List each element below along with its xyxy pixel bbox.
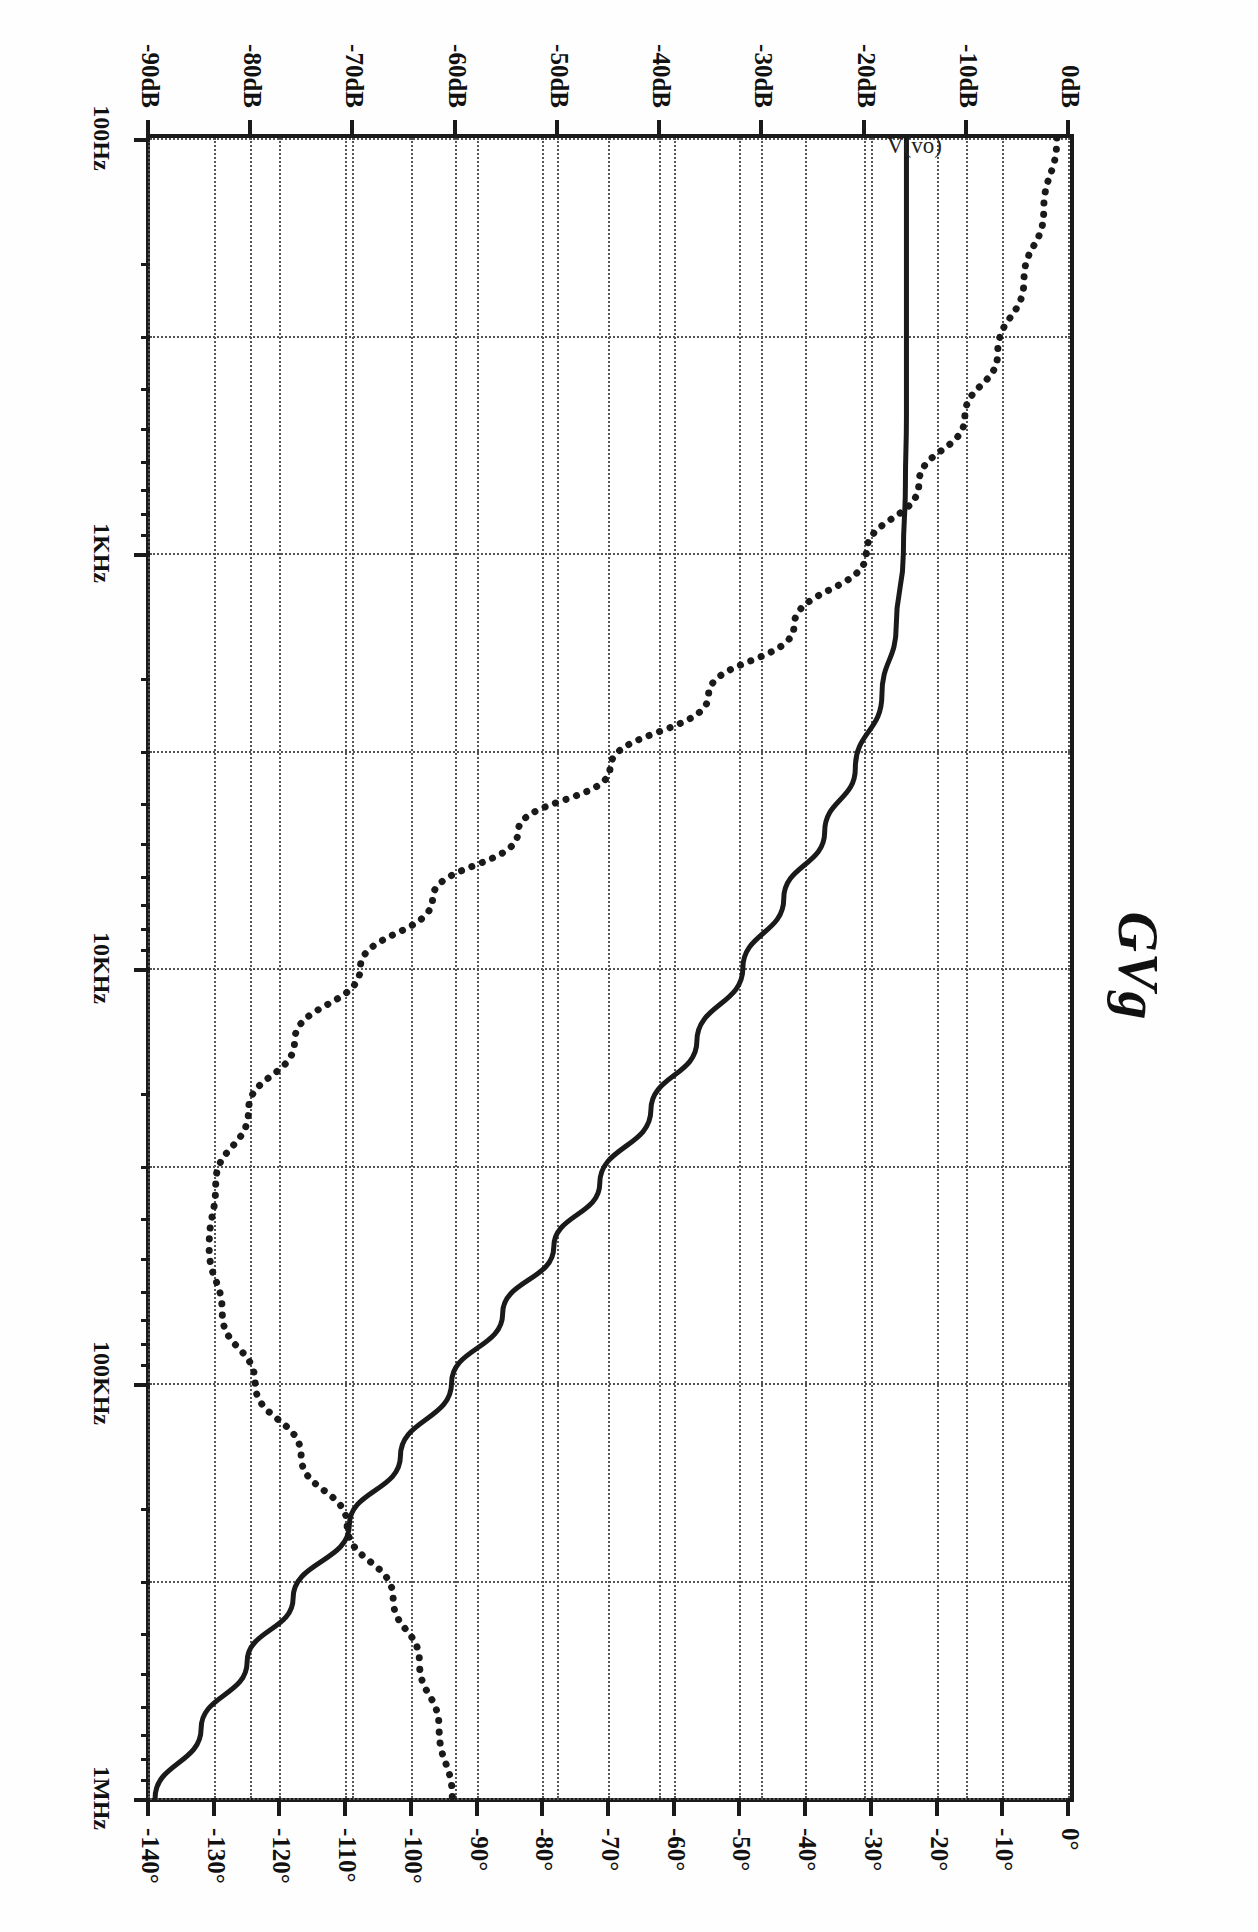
phase-tick: [409, 1798, 413, 1816]
frequency-tick-minor: [141, 803, 150, 806]
phase-tick-label: -90°: [465, 1828, 493, 1871]
series-magnitude: [155, 138, 906, 1798]
magnitude-tick: [1066, 120, 1070, 138]
frequency-tick-label: 100Hz: [88, 105, 115, 170]
magnitude-tick: [759, 120, 763, 138]
frequency-tick-minor: [141, 534, 150, 537]
phase-tick-label: -130°: [202, 1828, 230, 1884]
magnitude-tick-label: -50dB: [545, 44, 573, 108]
frequency-tick-minor: [141, 263, 150, 266]
frequency-tick-major: [134, 1383, 150, 1387]
magnitude-tick-label: -30dB: [749, 44, 777, 108]
phase-tick-label: -110°: [333, 1828, 361, 1882]
phase-tick: [1066, 1798, 1070, 1816]
magnitude-tick-label: -60dB: [443, 44, 471, 108]
phase-tick: [212, 1798, 216, 1816]
frequency-tick-minor: [141, 1633, 150, 1636]
frequency-tick-minor: [141, 1258, 150, 1261]
frequency-tick-minor: [141, 678, 150, 681]
phase-tick-label: -20°: [925, 1828, 953, 1871]
frequency-tick-major: [134, 138, 150, 142]
frequency-tick-minor: [141, 1343, 150, 1346]
frequency-tick-minor: [141, 1364, 150, 1367]
frequency-tick-minor: [141, 1291, 150, 1294]
frequency-tick-minor: [141, 428, 150, 431]
frequency-tick-minor: [141, 876, 150, 879]
frequency-tick-major: [134, 553, 150, 557]
frequency-tick-minor: [141, 928, 150, 931]
phase-tick-label: 0°: [1056, 1828, 1084, 1851]
frequency-tick-major: [134, 968, 150, 972]
phase-tick-label: -60°: [662, 1828, 690, 1871]
magnitude-tick: [453, 120, 457, 138]
gridline-vertical: [150, 1798, 1070, 1800]
frequency-tick-minor: [141, 1779, 150, 1782]
frequency-tick-minor: [141, 904, 150, 907]
frequency-tick-label: 1KHz: [88, 523, 115, 583]
page-title: GVg: [1106, 912, 1170, 1021]
frequency-tick-minor: [141, 1166, 150, 1169]
frequency-tick-minor: [141, 388, 150, 391]
frequency-tick-label: 1MHz: [88, 1766, 115, 1830]
frequency-tick-minor: [141, 1734, 150, 1737]
magnitude-tick-label: -90dB: [136, 44, 164, 108]
plot-area: 100Hz1KHz10KHz100KHz1MHz 0dB-10dB-20dB-3…: [146, 134, 1074, 1802]
phase-tick-label: -80°: [530, 1828, 558, 1871]
frequency-tick-label: 10KHz: [88, 932, 115, 1004]
phase-tick: [803, 1798, 807, 1816]
frequency-tick-minor: [141, 1758, 150, 1761]
frequency-tick-minor: [141, 513, 150, 516]
frequency-tick-minor: [141, 1581, 150, 1584]
phase-tick: [146, 1798, 150, 1816]
magnitude-tick-label: -70dB: [340, 44, 368, 108]
frequency-tick-minor: [141, 1673, 150, 1676]
phase-tick: [672, 1798, 676, 1816]
magnitude-tick: [555, 120, 559, 138]
magnitude-tick: [657, 120, 661, 138]
phase-tick: [869, 1798, 873, 1816]
phase-tick-label: -100°: [399, 1828, 427, 1884]
phase-tick: [935, 1798, 939, 1816]
phase-tick-label: -40°: [793, 1828, 821, 1871]
phase-tick: [343, 1798, 347, 1816]
phase-tick-label: -30°: [859, 1828, 887, 1871]
magnitude-tick: [146, 120, 150, 138]
phase-tick-label: -120°: [267, 1828, 295, 1884]
frequency-tick-minor: [141, 1218, 150, 1221]
phase-tick: [475, 1798, 479, 1816]
frequency-tick-minor: [141, 1319, 150, 1322]
magnitude-tick: [248, 120, 252, 138]
frequency-tick-minor: [141, 843, 150, 846]
magnitude-tick-label: -40dB: [647, 44, 675, 108]
magnitude-tick-label: 0dB: [1056, 65, 1084, 108]
bode-plot-figure: GVg 100Hz1KHz10KHz100KHz1MHz 0dB-10dB-20…: [64, 56, 1194, 1876]
frequency-tick-minor: [141, 1093, 150, 1096]
frequency-tick-minor: [141, 1508, 150, 1511]
frequency-tick-label: 100KHz: [88, 1341, 115, 1425]
magnitude-tick-label: -20dB: [852, 44, 880, 108]
magnitude-tick: [862, 120, 866, 138]
phase-tick-label: -140°: [136, 1828, 164, 1884]
frequency-tick-minor: [141, 949, 150, 952]
frequency-tick-minor: [141, 1706, 150, 1709]
magnitude-tick: [964, 120, 968, 138]
phase-tick: [606, 1798, 610, 1816]
frequency-tick-minor: [141, 751, 150, 754]
frequency-tick-minor: [141, 461, 150, 464]
phase-tick: [277, 1798, 281, 1816]
phase-tick: [737, 1798, 741, 1816]
phase-tick-label: -50°: [727, 1828, 755, 1871]
magnitude-tick-label: -80dB: [238, 44, 266, 108]
frequency-tick-minor: [141, 489, 150, 492]
scan-page: GVg 100Hz1KHz10KHz100KHz1MHz 0dB-10dB-20…: [0, 0, 1258, 1932]
frequency-tick-minor: [141, 336, 150, 339]
phase-tick-label: -70°: [596, 1828, 624, 1871]
magnitude-tick-label: -10dB: [954, 44, 982, 108]
data-curves: [150, 138, 1070, 1798]
phase-tick: [1000, 1798, 1004, 1816]
magnitude-tick: [350, 120, 354, 138]
phase-tick-label: -10°: [990, 1828, 1018, 1871]
phase-tick: [540, 1798, 544, 1816]
trace-label-vvo: V(vo): [887, 133, 942, 159]
